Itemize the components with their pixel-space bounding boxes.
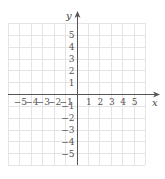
y-axis-label: y xyxy=(65,10,72,21)
x-axis-label: x xyxy=(152,97,158,108)
x-tick-label: 4 xyxy=(120,97,126,107)
x-tick-label: 1 xyxy=(86,97,92,107)
y-tick-label: −1 xyxy=(61,101,74,111)
y-tick-label: −2 xyxy=(61,113,74,123)
x-tick-label: 5 xyxy=(132,97,138,107)
x-tick-label: 3 xyxy=(109,97,115,107)
coordinate-plane: x y −5−4−3−2−112345 54321−1−2−3−4−5 xyxy=(0,0,165,179)
y-tick-label: 2 xyxy=(69,66,75,76)
y-tick-label: 1 xyxy=(69,78,75,88)
y-tick-label: 4 xyxy=(69,42,75,52)
x-tick-labels: −5−4−3−2−112345 xyxy=(14,97,138,107)
y-tick-label: 3 xyxy=(69,54,75,64)
x-tick-label: 2 xyxy=(97,97,103,107)
y-tick-label: −4 xyxy=(61,137,75,147)
y-tick-label: −5 xyxy=(61,149,75,159)
y-tick-label: 5 xyxy=(69,30,75,40)
y-tick-label: −3 xyxy=(61,125,75,135)
